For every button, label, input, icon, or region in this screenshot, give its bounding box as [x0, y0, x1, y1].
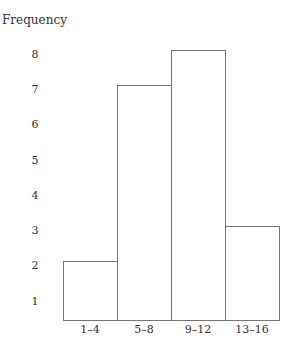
x-tick-label: 1–4 [63, 324, 117, 336]
y-tick-label: 3 [28, 225, 42, 237]
x-tick-label: 13–16 [225, 324, 279, 336]
x-tick-label: 5–8 [117, 324, 171, 336]
y-tick-label: 2 [28, 260, 42, 272]
y-tick-label: 7 [28, 84, 42, 96]
histogram-bar [225, 226, 280, 321]
x-tick-label: 9–12 [171, 324, 225, 336]
y-tick-label: 5 [28, 155, 42, 167]
histogram-bar [171, 50, 226, 321]
histogram-bar [63, 261, 118, 321]
histogram-bar [117, 85, 172, 321]
y-axis-label: Frequency [2, 13, 67, 27]
y-tick-label: 4 [28, 190, 42, 202]
y-tick-label: 1 [28, 296, 42, 308]
y-tick-label: 6 [28, 119, 42, 131]
y-tick-label: 8 [28, 49, 42, 61]
